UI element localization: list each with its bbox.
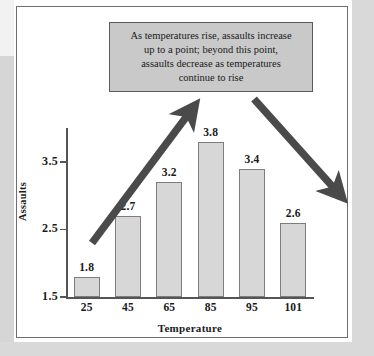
- plot-area: Assaults Temperature 1.52.53.51.8252.745…: [0, 0, 374, 356]
- bar: [156, 182, 182, 297]
- x-axis-line: [66, 297, 314, 299]
- bar: [280, 223, 306, 297]
- y-axis-tick-label: 2.5: [18, 221, 58, 236]
- x-axis-title: Temperature: [66, 322, 314, 334]
- bar: [115, 216, 141, 297]
- bar: [74, 277, 100, 297]
- y-axis-tick: [60, 229, 67, 231]
- bar-value-label: 3.8: [191, 126, 231, 138]
- y-axis-tick: [60, 161, 67, 163]
- bar-value-label: 3.4: [232, 153, 272, 165]
- bar-value-label: 3.2: [149, 166, 189, 178]
- y-axis-tick-label: 1.5: [18, 289, 58, 304]
- x-axis-tick-label: 101: [273, 301, 313, 313]
- x-axis-tick-label: 65: [149, 301, 189, 313]
- bar: [198, 142, 224, 297]
- bar-value-label: 2.7: [108, 200, 148, 212]
- x-axis-tick-label: 95: [232, 301, 272, 313]
- x-axis-tick-label: 45: [108, 301, 148, 313]
- y-axis-tick: [60, 296, 67, 298]
- x-axis-tick-label: 85: [191, 301, 231, 313]
- bar-value-label: 2.6: [273, 207, 313, 219]
- bar-value-label: 1.8: [67, 261, 107, 273]
- x-axis-tick-label: 25: [67, 301, 107, 313]
- y-axis-tick-label: 3.5: [18, 154, 58, 169]
- bar: [239, 169, 265, 297]
- chart-screenshot: As temperatures rise, assaults increase …: [0, 0, 374, 356]
